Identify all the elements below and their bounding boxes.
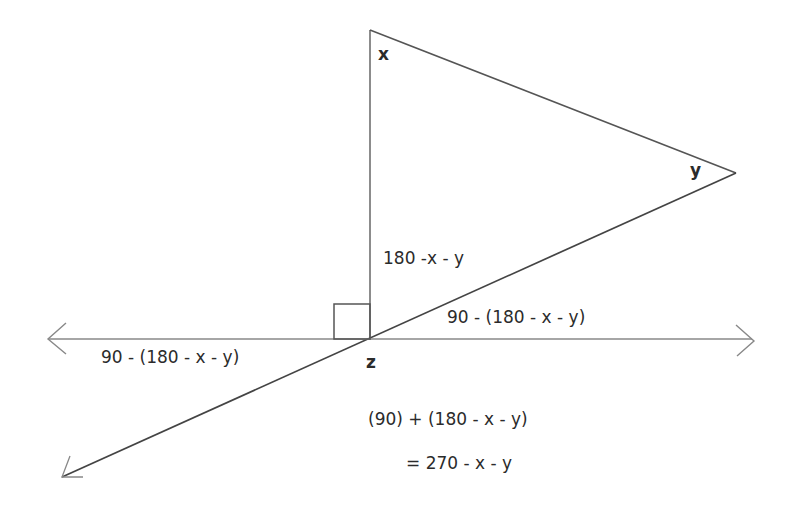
diagonal-line	[62, 173, 736, 477]
vertex-label-y: y	[690, 162, 701, 179]
lower-left-arrowhead-icon	[62, 456, 83, 477]
sum-expression-label: (90) + (180 - x - y)	[368, 411, 528, 428]
result-expression-label: = 270 - x - y	[406, 455, 512, 472]
vertex-label-x: x	[378, 46, 389, 63]
right-arrowhead-icon	[736, 325, 754, 356]
upper-right-angle-label: 90 - (180 - x - y)	[447, 309, 585, 326]
lower-left-angle-label: 90 - (180 - x - y)	[101, 349, 239, 366]
vertex-label-z: z	[366, 354, 376, 371]
top-segment	[370, 30, 736, 173]
right-angle-marker-icon	[334, 304, 370, 339]
interior-angle-label: 180 -x - y	[383, 250, 464, 267]
diagram-canvas: x y z 180 -x - y 90 - (180 - x - y) 90 -…	[0, 0, 793, 512]
